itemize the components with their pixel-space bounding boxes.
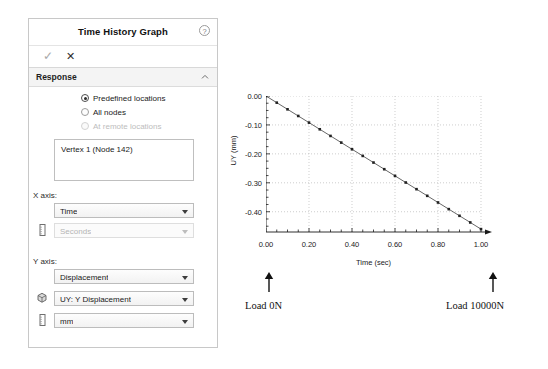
x-tick-label: 0.80 <box>431 240 446 249</box>
location-list-box[interactable]: Vertex 1 (Node 142) <box>54 139 194 181</box>
list-item[interactable]: Vertex 1 (Node 142) <box>61 145 133 154</box>
x-tick-label: 1.00 <box>474 240 489 249</box>
dropdown-value: Time <box>60 207 77 216</box>
help-circle-icon[interactable]: ? <box>199 25 210 36</box>
annotation-load-start: Load 0N <box>245 300 282 311</box>
x-axis-quantity-dropdown[interactable]: Time <box>54 203 194 218</box>
chevron-down-icon <box>182 320 188 324</box>
dropdown-value: mm <box>60 317 73 326</box>
units-ruler-icon <box>36 313 49 327</box>
cancel-button[interactable]: ✕ <box>63 49 78 64</box>
radio-indicator <box>81 122 89 130</box>
y-tick-label: -0.20 <box>245 149 262 158</box>
panel-header: Time History Graph ? <box>29 19 217 46</box>
y-axis-label: Y axis: <box>33 257 57 266</box>
y-tick-label: -0.30 <box>245 178 262 187</box>
units-ruler-icon <box>36 223 49 237</box>
panel-title: Time History Graph <box>29 26 217 37</box>
radio-label: At remote locations <box>93 122 161 131</box>
time-history-chart: UY (mm) 0.00-0.10-0.20-0.30-0.40 0.000.2… <box>222 88 522 283</box>
dropdown-value: Displacement <box>60 273 108 282</box>
chart-x-tick-labels: 0.000.200.400.600.801.00 <box>266 240 481 252</box>
model-cube-icon <box>36 291 49 305</box>
y-tick-label: 0.00 <box>247 92 262 101</box>
radio-indicator <box>81 108 89 116</box>
arrow-up-icon <box>488 272 498 292</box>
chevron-up-icon[interactable] <box>201 73 209 81</box>
x-tick-label: 0.40 <box>345 240 360 249</box>
chart-plot-area <box>266 96 481 232</box>
y-axis-units-dropdown[interactable]: mm <box>54 313 194 328</box>
annotation-load-end: Load 10000N <box>446 300 504 311</box>
x-tick-label: 0.60 <box>388 240 403 249</box>
chevron-down-icon <box>182 276 188 280</box>
y-axis-component-dropdown[interactable]: UY: Y Displacement <box>54 291 194 306</box>
x-tick-label: 0.00 <box>259 240 274 249</box>
response-section-header[interactable]: Response <box>29 68 217 87</box>
chevron-down-icon <box>182 230 188 234</box>
chevron-down-icon <box>182 210 188 214</box>
accept-button[interactable]: ✓ <box>40 49 55 64</box>
x-axis-label: X axis: <box>33 191 57 200</box>
chart-y-tick-labels: 0.00-0.10-0.20-0.30-0.40 <box>232 88 262 236</box>
x-tick-label: 0.20 <box>302 240 317 249</box>
x-axis-units-dropdown: Seconds <box>54 223 194 238</box>
dropdown-value: Seconds <box>60 227 91 236</box>
chevron-down-icon <box>182 298 188 302</box>
y-tick-label: -0.40 <box>245 207 262 216</box>
radio-label: Predefined locations <box>93 94 166 103</box>
chart-x-axis-title: Time (sec) <box>266 258 481 267</box>
radio-indicator <box>81 94 89 102</box>
arrow-up-icon <box>264 272 274 292</box>
y-tick-label: -0.10 <box>245 120 262 129</box>
panel-action-bar: ✓ ✕ <box>29 46 217 68</box>
dropdown-value: UY: Y Displacement <box>60 295 131 304</box>
time-history-graph-panel: Time History Graph ? ✓ ✕ Response Predef… <box>28 18 218 348</box>
y-axis-quantity-dropdown[interactable]: Displacement <box>54 269 194 284</box>
radio-label: All nodes <box>93 108 126 117</box>
response-section-title: Response <box>36 72 77 82</box>
